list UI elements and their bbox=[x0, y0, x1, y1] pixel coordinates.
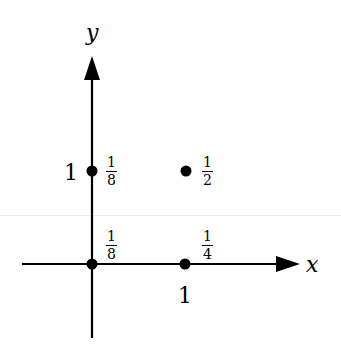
point-xy1-label: 1 2 bbox=[202, 155, 213, 187]
x-axis-arrow-icon bbox=[276, 256, 300, 272]
denominator: 2 bbox=[203, 173, 212, 187]
point-y1-label: 1 8 bbox=[106, 155, 117, 187]
numerator: 1 bbox=[203, 155, 212, 169]
numerator: 1 bbox=[107, 155, 116, 169]
numerator: 1 bbox=[203, 229, 212, 243]
point-xy1 bbox=[181, 166, 192, 177]
denominator: 8 bbox=[107, 173, 116, 187]
point-origin bbox=[87, 259, 98, 270]
denominator: 4 bbox=[203, 247, 212, 261]
point-x1-label: 1 4 bbox=[202, 229, 213, 261]
point-x1 bbox=[180, 259, 191, 270]
denominator: 8 bbox=[107, 247, 116, 261]
y-axis-label: y bbox=[86, 22, 98, 44]
x-tick-label: 1 bbox=[178, 285, 192, 307]
axes-graphic bbox=[0, 0, 341, 358]
y-axis-arrow-icon bbox=[84, 56, 100, 80]
numerator: 1 bbox=[107, 229, 116, 243]
point-origin-label: 1 8 bbox=[106, 229, 117, 261]
y-tick-label: 1 bbox=[64, 162, 78, 184]
x-axis-label: x bbox=[306, 254, 318, 276]
point-y1 bbox=[87, 166, 98, 177]
